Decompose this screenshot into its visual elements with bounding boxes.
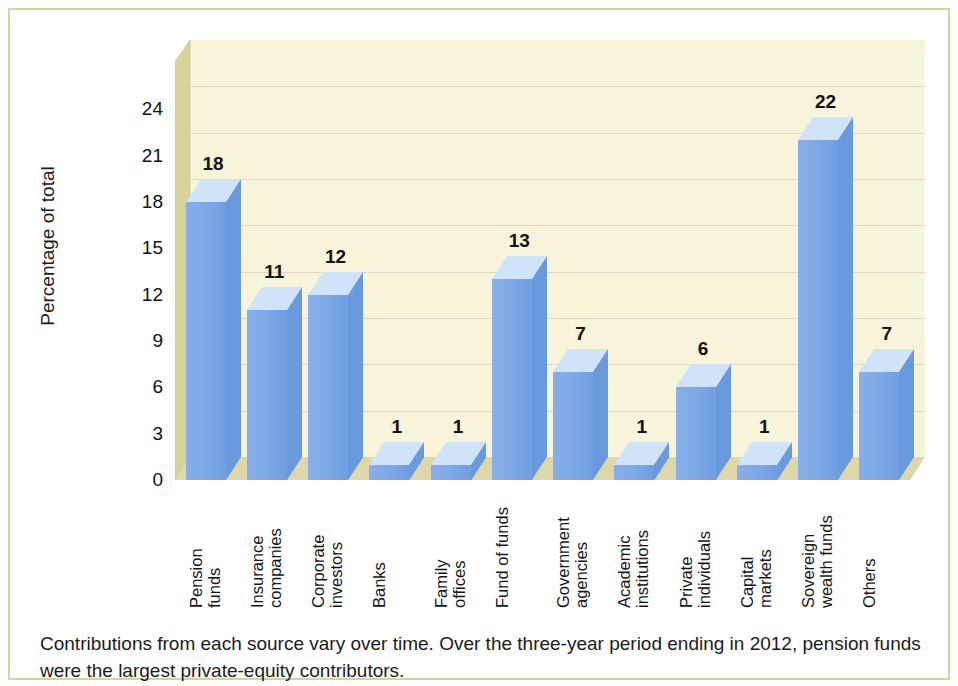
- y-tick-label: 9: [117, 331, 163, 350]
- x-axis-label-line1: Corporate: [309, 535, 327, 608]
- y-tick-label: 0: [117, 470, 163, 489]
- x-axis-label: Familyoffices: [432, 559, 468, 608]
- bar-3d-faces: [859, 349, 914, 480]
- figure-caption: Contributions from each source vary over…: [40, 630, 935, 684]
- x-axis-label: Governmentagencies: [554, 517, 590, 608]
- figure-frame: Percentage of total 03691215182124 18111…: [8, 8, 950, 680]
- bar-3d-faces: [676, 364, 731, 480]
- bar: [614, 465, 654, 480]
- y-axis-title: Percentage of total: [37, 106, 59, 386]
- bar: [798, 140, 838, 480]
- x-axis-label-line1: Academic: [615, 536, 633, 608]
- bar-value-label: 11: [244, 261, 304, 283]
- bar: [308, 295, 348, 480]
- x-axis-label-line2: markets: [756, 549, 774, 608]
- x-axis-label-line1: Family: [432, 559, 450, 608]
- bar: [737, 465, 777, 480]
- bar-3d-faces: [737, 442, 792, 480]
- y-tick-label: 3: [117, 424, 163, 443]
- x-axis-label-line1: Fund of funds: [493, 507, 511, 608]
- bar: [186, 202, 226, 480]
- bar-value-label: 1: [612, 416, 672, 438]
- x-axis-label-line1: Others: [860, 558, 878, 608]
- x-axis-label: Privateindividuals: [677, 531, 713, 608]
- bar-side-face: [226, 179, 241, 480]
- x-axis-label-line2: funds: [205, 548, 223, 608]
- y-tick-label: 15: [117, 238, 163, 257]
- bar-value-label: 1: [734, 416, 794, 438]
- bar-value-label: 12: [306, 246, 366, 268]
- bar: [676, 387, 716, 480]
- x-axis-label-line1: Private: [677, 557, 695, 608]
- bar-value-label: 18: [183, 153, 243, 175]
- x-axis-label-line1: Government: [554, 517, 572, 608]
- figure-page: Percentage of total 03691215182124 18111…: [0, 0, 958, 686]
- y-tick-label: 21: [117, 146, 163, 165]
- chart-plot-area: 18111211137161227: [175, 40, 925, 480]
- y-tick-label: 6: [117, 377, 163, 396]
- bar: [431, 465, 471, 480]
- bar-3d-faces: [186, 179, 241, 480]
- x-axis-label-line1: Banks: [370, 562, 388, 608]
- bar-side-face: [532, 256, 547, 480]
- x-axis-label-line2: investors: [327, 535, 345, 608]
- bar-3d-faces: [247, 287, 302, 480]
- bar-3d-faces: [369, 442, 424, 480]
- x-axis-label: Banks: [370, 562, 388, 608]
- bar: [859, 372, 899, 480]
- bar-chart: Percentage of total 03691215182124 18111…: [20, 20, 940, 620]
- y-tick-label: 24: [117, 99, 163, 118]
- bar-side-face: [593, 349, 608, 480]
- x-axis-label-line2: agencies: [572, 517, 590, 608]
- bar: [492, 279, 532, 480]
- x-axis-label: Fund of funds: [493, 507, 511, 608]
- x-axis-label: Academicinstitutions: [615, 530, 651, 608]
- x-axis-label: Pensionfunds: [187, 548, 223, 608]
- bar-3d-faces: [614, 442, 669, 480]
- bar-side-face: [838, 117, 853, 480]
- y-tick-label: 12: [117, 285, 163, 304]
- bar-value-label: 7: [857, 323, 917, 345]
- bar-value-label: 13: [489, 230, 549, 252]
- x-axis-label-line1: Pension: [187, 548, 205, 608]
- x-axis-label-line2: individuals: [695, 531, 713, 608]
- bar-3d-faces: [492, 256, 547, 480]
- bar: [553, 372, 593, 480]
- bar-3d-faces: [798, 117, 853, 480]
- x-axis-label-line2: wealth funds: [817, 515, 835, 608]
- x-axis-label-line1: Sovereign: [799, 534, 817, 608]
- bar-side-face: [348, 272, 363, 480]
- x-axis-label-line2: institutions: [633, 530, 651, 608]
- x-axis-label: Insurancecompanies: [248, 528, 284, 608]
- bar-3d-faces: [553, 349, 608, 480]
- bar-value-label: 6: [673, 338, 733, 360]
- bar-side-face: [899, 349, 914, 480]
- bar-side-face: [287, 287, 302, 480]
- x-axis-label-line1: Capital: [738, 557, 756, 608]
- bar: [369, 465, 409, 480]
- bar-series: 18111211137161227: [175, 40, 925, 480]
- x-axis-label: Others: [860, 558, 878, 608]
- x-axis-label-line1: Insurance: [248, 536, 266, 608]
- x-axis-label-line2: companies: [266, 528, 284, 608]
- bar-value-label: 1: [428, 416, 488, 438]
- y-tick-label: 18: [117, 192, 163, 211]
- x-axis-label: Capitalmarkets: [738, 549, 774, 608]
- bar-3d-faces: [431, 442, 486, 480]
- x-axis-label: Corporateinvestors: [309, 535, 345, 608]
- x-axis-label: Sovereignwealth funds: [799, 515, 835, 608]
- bar-value-label: 1: [367, 416, 427, 438]
- bar-value-label: 7: [551, 323, 611, 345]
- bar-value-label: 22: [796, 91, 856, 113]
- bar-3d-faces: [308, 272, 363, 480]
- bar: [247, 310, 287, 480]
- x-axis-label-line2: offices: [450, 559, 468, 608]
